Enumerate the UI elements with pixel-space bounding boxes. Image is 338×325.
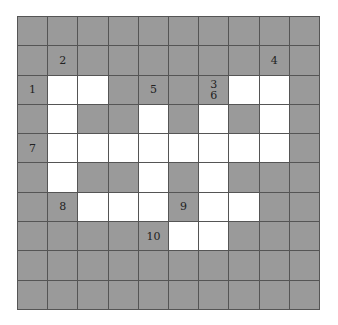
block-cell [229,46,258,74]
open-cell[interactable] [229,76,258,104]
open-cell[interactable] [139,134,168,162]
open-cell[interactable] [199,134,228,162]
block-cell [260,222,289,250]
block-cell [18,222,47,250]
block-cell [109,222,138,250]
block-cell [78,46,107,74]
open-cell[interactable] [169,134,198,162]
block-cell [169,281,198,309]
block-cell [260,163,289,191]
block-cell [169,251,198,279]
block-cell [48,17,77,45]
block-cell: 5 [139,76,168,104]
block-cell [290,281,319,309]
block-cell [260,281,289,309]
block-cell [199,46,228,74]
block-cell [290,76,319,104]
open-cell[interactable] [169,222,198,250]
open-cell[interactable] [199,222,228,250]
block-cell [109,251,138,279]
clue-number: 1 [29,84,36,95]
open-cell[interactable] [78,193,107,221]
block-cell: 2 [48,46,77,74]
block-cell: 10 [139,222,168,250]
block-cell [229,105,258,133]
block-cell [78,17,107,45]
block-cell [139,251,168,279]
open-cell[interactable] [199,105,228,133]
block-cell: 3 6 [199,76,228,104]
block-cell [139,17,168,45]
block-cell [229,17,258,45]
clue-number: 5 [150,84,157,95]
block-cell [169,17,198,45]
block-cell [139,281,168,309]
block-cell [199,281,228,309]
open-cell[interactable] [48,76,77,104]
block-cell [260,193,289,221]
block-cell [48,251,77,279]
open-cell[interactable] [109,134,138,162]
block-cell [18,17,47,45]
clue-number: 10 [146,231,160,242]
block-cell [169,76,198,104]
open-cell[interactable] [260,105,289,133]
open-cell[interactable] [199,193,228,221]
block-cell [18,46,47,74]
open-cell[interactable] [229,193,258,221]
block-cell: 8 [48,193,77,221]
block-cell [48,281,77,309]
block-cell [290,17,319,45]
block-cell [290,222,319,250]
block-cell [290,193,319,221]
block-cell [78,163,107,191]
block-cell [290,251,319,279]
block-cell: 7 [18,134,47,162]
block-cell: 1 [18,76,47,104]
block-cell [18,281,47,309]
clue-number: 9 [180,201,187,212]
open-cell[interactable] [139,105,168,133]
open-cell[interactable] [109,193,138,221]
block-cell [109,46,138,74]
block-cell [18,105,47,133]
block-cell [109,17,138,45]
open-cell[interactable] [78,76,107,104]
block-cell [169,163,198,191]
block-cell [199,17,228,45]
block-cell [229,281,258,309]
open-cell[interactable] [139,193,168,221]
block-cell [18,163,47,191]
block-cell [78,105,107,133]
block-cell [78,251,107,279]
block-cell [139,46,168,74]
block-cell [48,222,77,250]
open-cell[interactable] [260,76,289,104]
crossword-grid: 24153 678910 [17,16,320,310]
open-cell[interactable] [48,134,77,162]
open-cell[interactable] [48,105,77,133]
open-cell[interactable] [48,163,77,191]
open-cell[interactable] [139,163,168,191]
block-cell [78,281,107,309]
clue-number: 3 6 [210,79,217,101]
block-cell [18,251,47,279]
block-cell [260,17,289,45]
block-cell [290,134,319,162]
open-cell[interactable] [199,163,228,191]
open-cell[interactable] [229,134,258,162]
clue-number: 7 [29,143,36,154]
open-cell[interactable] [260,134,289,162]
block-cell [229,163,258,191]
block-cell [109,281,138,309]
open-cell[interactable] [78,134,107,162]
block-cell [260,251,289,279]
block-cell [229,251,258,279]
block-cell [169,46,198,74]
block-cell [169,105,198,133]
block-cell [229,222,258,250]
block-cell [199,251,228,279]
clue-number: 8 [59,201,66,212]
clue-number: 4 [271,55,278,66]
block-cell [290,46,319,74]
